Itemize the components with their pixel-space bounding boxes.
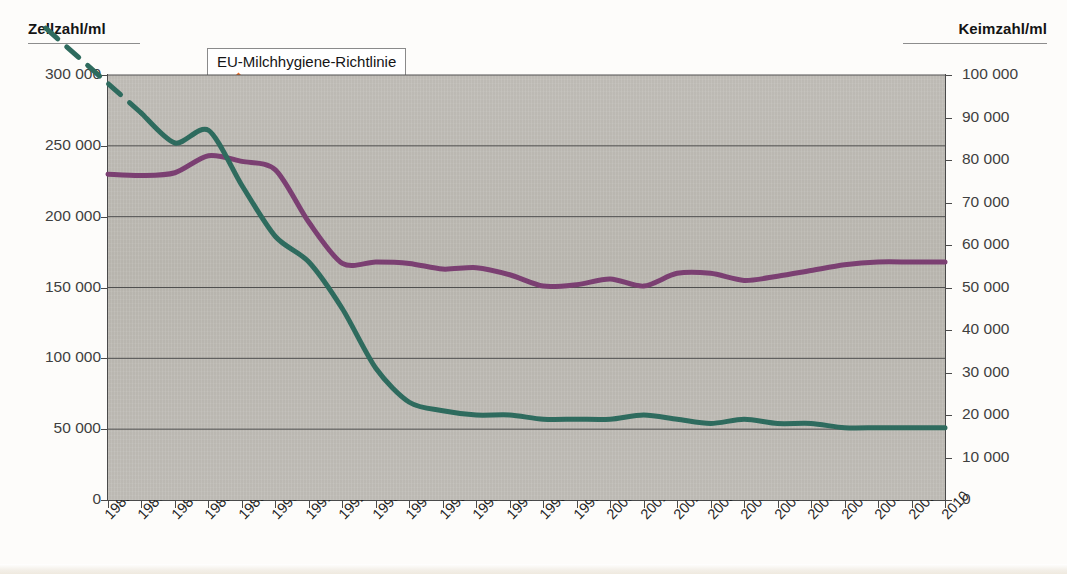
right-axis-title: Keimzahl/ml: [958, 20, 1047, 37]
gridlines: [108, 75, 945, 429]
chart-canvas: [108, 75, 945, 500]
left-axis-tick-mark: [101, 429, 108, 430]
left-axis-tick-label: 0: [92, 491, 101, 507]
left-axis-tick-label: 100 000: [45, 349, 101, 365]
right-axis-tick-label: 60 000: [962, 236, 1009, 252]
left-axis-title: Zellzahl/ml: [28, 20, 106, 37]
right-title-rule: [903, 43, 1047, 44]
right-axis-tick-mark: [945, 118, 952, 119]
left-axis-tick-label: 150 000: [45, 279, 101, 295]
annotation-eu-directive: EU-Milchhygiene-Richtlinie: [207, 48, 406, 76]
right-axis-tick-label: 100 000: [962, 66, 1018, 82]
right-axis-tick-mark: [945, 415, 952, 416]
right-axis-tick-label: 80 000: [962, 151, 1009, 167]
right-axis-tick-mark: [945, 75, 952, 76]
right-axis-tick-label: 90 000: [962, 109, 1009, 125]
right-axis-tick-mark: [945, 373, 952, 374]
left-axis-tick-mark: [101, 500, 108, 501]
right-axis-tick-mark: [945, 160, 952, 161]
right-axis-tick-mark: [945, 245, 952, 246]
right-axis-tick-label: 20 000: [962, 406, 1009, 422]
right-axis-tick-mark: [945, 330, 952, 331]
left-axis-tick-label: 200 000: [45, 208, 101, 224]
left-axis-tick-mark: [101, 288, 108, 289]
left-axis-tick-label: 50 000: [54, 420, 101, 436]
right-axis-tick-label: 40 000: [962, 321, 1009, 337]
page-scan-edge: [0, 564, 1067, 574]
left-axis-tick-mark: [101, 358, 108, 359]
right-axis-tick-label: 50 000: [962, 279, 1009, 295]
right-axis-tick-mark: [945, 458, 952, 459]
right-axis-tick-mark: [945, 203, 952, 204]
right-axis-tick-label: 10 000: [962, 449, 1009, 465]
left-axis-tick-mark: [101, 146, 108, 147]
plot-area: [108, 75, 945, 500]
chart-page: Zellzahl/ml Keimzahl/ml 050 000100 00015…: [0, 0, 1067, 574]
left-axis-tick-label: 250 000: [45, 137, 101, 153]
left-title-rule: [28, 43, 140, 44]
right-axis-tick-mark: [945, 288, 952, 289]
right-axis-tick-label: 30 000: [962, 364, 1009, 380]
series-lines: [44, 27, 945, 428]
right-axis-tick-label: 70 000: [962, 194, 1009, 210]
left-axis-tick-mark: [101, 217, 108, 218]
